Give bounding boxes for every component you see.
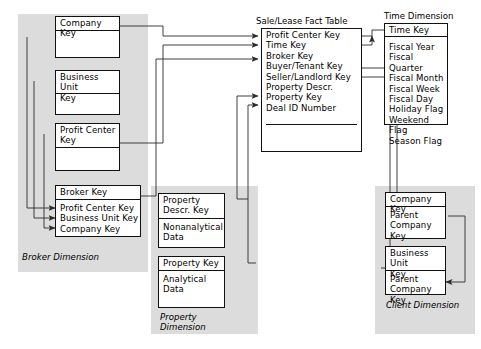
client-dimension-caption: Client Dimension [386,300,459,310]
time-attributes: Fiscal Year Fiscal Quarter Fiscal Month … [385,41,447,146]
property-dimension-caption: Property Dimension [160,312,206,333]
broker-key-label: Broker Key [56,186,140,197]
fact-table-title: Sale/Lease Fact Table [256,16,347,26]
broker-key-box[interactable]: Broker Key Profit Center Key Business Un… [55,185,141,237]
broker-profit-center-label: Profit Center Key [56,124,119,146]
broker-company-key-box[interactable]: Company Key [55,16,120,58]
property-key-label: Property Key [159,257,224,268]
broker-key-attributes: Profit Center Key Business Unit Key Comp… [56,202,140,234]
broker-business-unit-key-box[interactable]: Business Unit Key [55,70,120,115]
property-descr-body: Nonanalytical Data [159,221,224,243]
fact-table-divider [266,124,357,125]
property-key-body: Analytical Data [159,273,224,295]
client-company-key-box[interactable]: Company Key Parent Company Key [385,192,446,239]
client-business-unit-key-box[interactable]: Business Unit Key Parent Company Key [385,246,446,295]
broker-company-key-label: Company Key [56,17,119,39]
time-key-row: Time Key [385,24,447,35]
property-key-box[interactable]: Property Key Analytical Data [158,256,225,308]
property-descr-key-label: Property Descr. Key [159,194,224,216]
broker-dimension-caption: Broker Dimension [22,252,99,262]
broker-business-unit-label: Business Unit Key [56,71,119,103]
time-dimension-table[interactable]: Time Key Fiscal Year Fiscal Quarter Fisc… [384,23,448,125]
client-company-parent-label: Parent Company Key [386,209,445,241]
sale-lease-fact-table[interactable]: Profit Center Key Time Key Broker Key Bu… [261,28,362,152]
broker-profit-center-key-box[interactable]: Profit Center Key [55,123,120,171]
time-dimension-caption: Time Dimension [384,11,453,21]
er-diagram-canvas: Sale/Lease Fact Table Profit Center Key … [0,0,481,349]
property-descr-key-box[interactable]: Property Descr. Key Nonanalytical Data [158,193,225,248]
fact-table-rows: Profit Center Key Time Key Broker Key Bu… [262,29,361,113]
